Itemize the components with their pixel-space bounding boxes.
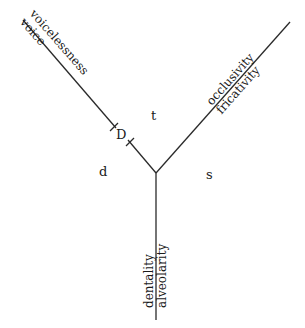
segment-s: s — [206, 167, 213, 182]
voicing-axis-lower — [128, 140, 156, 173]
segment-t: t — [151, 108, 157, 123]
label-alveolarity: alveolarity — [155, 244, 169, 308]
feature-diagram: voicelessness voice occlusivity fricativ… — [0, 0, 305, 328]
segment-D: D — [116, 127, 126, 142]
label-dentality: dentality — [142, 254, 156, 308]
segment-d: d — [99, 164, 107, 179]
